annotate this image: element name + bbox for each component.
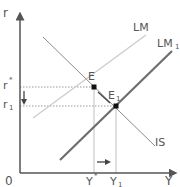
is-curve <box>43 37 155 146</box>
svg-text:*: * <box>94 172 98 180</box>
origin-label: 0 <box>5 174 13 187</box>
svg-text:Y: Y <box>109 175 117 187</box>
point-e-label: E <box>88 70 95 83</box>
svg-text:1: 1 <box>118 181 122 187</box>
svg-text:*: * <box>9 76 13 84</box>
svg-text:LM: LM <box>157 37 173 50</box>
point-e1-label: E 1 <box>108 89 120 103</box>
lm-label: LM <box>133 21 149 34</box>
point-e <box>92 85 97 90</box>
lm1-label: LM 1 <box>157 37 179 51</box>
point-e1 <box>114 104 119 109</box>
svg-text:1: 1 <box>116 95 120 103</box>
is-label: IS <box>155 136 165 149</box>
y1-label: Y 1 <box>109 175 122 187</box>
svg-text:r: r <box>3 98 8 111</box>
r1-label: r 1 <box>3 98 13 112</box>
guide-lines <box>20 87 116 173</box>
svg-text:E: E <box>108 89 115 102</box>
x-axis-label: Y <box>164 174 173 187</box>
y-axis-label: r <box>3 6 8 20</box>
y-star-label: Y * <box>85 172 98 187</box>
r-star-label: r * <box>3 76 13 92</box>
svg-text:Y: Y <box>85 175 93 187</box>
svg-text:r: r <box>3 79 8 92</box>
svg-text:1: 1 <box>175 43 179 51</box>
svg-text:1: 1 <box>9 104 13 112</box>
is-lm-diagram: r Y 0 LM LM 1 IS E E 1 r * r 1 Y * Y 1 <box>0 0 180 187</box>
